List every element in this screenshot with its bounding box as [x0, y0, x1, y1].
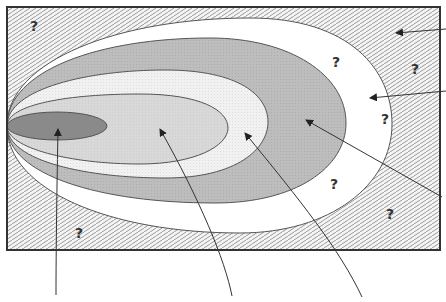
question-mark: ? — [332, 55, 340, 69]
question-mark: ? — [411, 62, 419, 76]
question-mark: ? — [381, 112, 389, 126]
nested-zones-diagram — [0, 0, 446, 302]
dark-core-ellipse — [7, 112, 107, 140]
question-mark: ? — [330, 177, 338, 191]
question-mark: ? — [386, 207, 394, 221]
question-mark: ? — [75, 226, 83, 240]
question-mark: ? — [30, 19, 38, 33]
